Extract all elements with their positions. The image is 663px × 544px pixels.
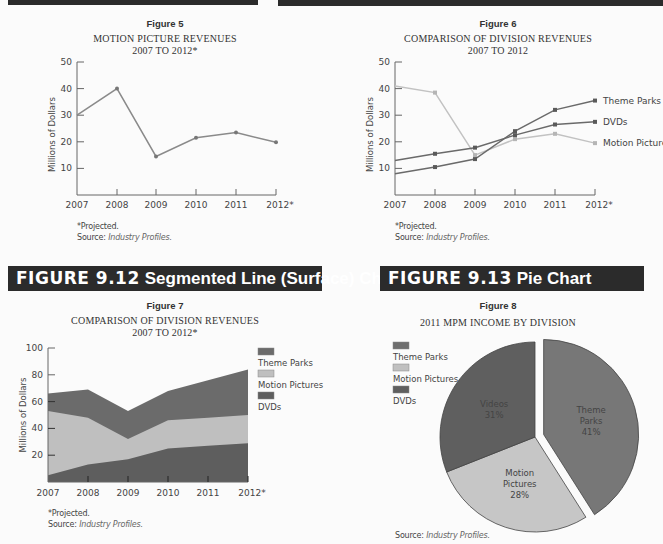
x-tick-label: 2007 — [37, 488, 60, 498]
legend-label: Theme Parks — [257, 358, 313, 368]
figure8-pie-chart: ThemeParks41%MotionPictures28%Videos31%T… — [333, 0, 663, 544]
pie-slice-label: Videos — [480, 399, 509, 409]
x-tick-label: 2008 — [77, 488, 100, 498]
legend-label: Motion Pictures — [393, 374, 459, 384]
pie-slice-label: Pictures — [503, 479, 537, 489]
x-tick-label: 2011 — [197, 488, 220, 498]
legend-label: DVDs — [258, 402, 282, 412]
pie-slice-label: 28% — [510, 490, 529, 500]
legend-label: Motion Pictures — [258, 380, 324, 390]
source-value: Industry Profiles. — [79, 520, 143, 529]
source-label: Source: — [395, 531, 424, 540]
source-label: Source: — [48, 520, 77, 529]
figure8-notes: Source: Industry Profiles. — [395, 530, 490, 541]
legend-swatch — [393, 364, 409, 371]
pie-slice-label: Parks — [580, 416, 603, 426]
x-tick-label: 2009 — [117, 488, 140, 498]
y-tick-label: 80 — [32, 370, 44, 380]
source-value: Industry Profiles. — [426, 531, 490, 540]
y-tick-label: 20 — [32, 450, 44, 460]
pie-slice-label: Motion — [505, 468, 534, 478]
projected-note: *Projected. — [48, 508, 143, 519]
x-tick-label: 2012* — [238, 488, 266, 498]
legend-label: Theme Parks — [392, 352, 448, 362]
y-tick-label: 100 — [26, 343, 43, 353]
pie-slice-label: 31% — [485, 410, 504, 420]
legend-swatch — [258, 392, 274, 399]
figure7-notes: *Projected. Source: Industry Profiles. — [48, 508, 143, 530]
legend-swatch — [393, 342, 409, 349]
legend-swatch — [258, 370, 274, 377]
y-tick-label: 60 — [32, 397, 44, 407]
y-tick-label: 40 — [32, 423, 44, 433]
pie-slice-label: Theme — [575, 405, 605, 415]
legend-swatch — [393, 386, 409, 393]
legend-label: DVDs — [393, 396, 417, 406]
legend-swatch — [258, 348, 274, 355]
x-tick-label: 2010 — [157, 488, 180, 498]
figure7-area-chart: 20406080100200720082009201020112012*Mill… — [0, 0, 330, 544]
pie-slice-label: 41% — [582, 427, 601, 437]
y-axis-title: Millions of Dollars — [18, 377, 28, 453]
